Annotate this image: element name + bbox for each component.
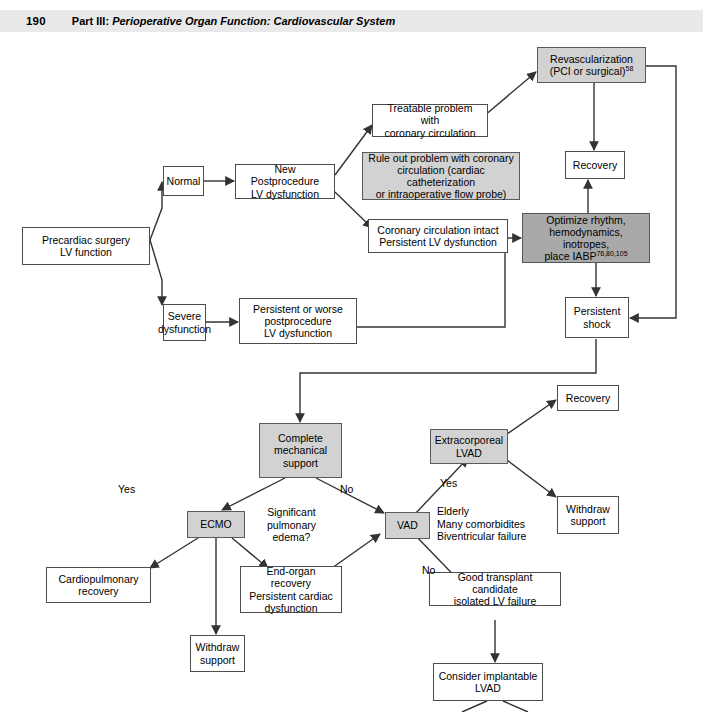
node-label: Coronary circulation intact Persistent L… xyxy=(377,224,498,248)
node-label: Normal xyxy=(167,175,201,187)
node-complete-mechanical-support[interactable]: Complete mechanical support xyxy=(259,423,342,478)
node-revascularization[interactable]: Revascularization (PCI or surgical)58 xyxy=(537,47,646,83)
node-label: End-organ recovery Persistent cardiac dy… xyxy=(245,565,337,614)
node-withdraw-support-left[interactable]: Withdraw support xyxy=(190,635,245,672)
edge-label-no-transplant: No xyxy=(422,564,435,576)
node-treatable-problem[interactable]: Treatable problem with coronary circulat… xyxy=(372,104,488,137)
node-label: ECMO xyxy=(200,518,232,530)
node-coronary-circulation-intact[interactable]: Coronary circulation intact Persistent L… xyxy=(368,219,508,253)
node-normal[interactable]: Normal xyxy=(163,166,204,196)
node-label-line1: Optimize rhythm, xyxy=(546,214,625,226)
node-cardiopulmonary-recovery[interactable]: Cardiopulmonary recovery xyxy=(46,567,151,603)
reference-marker: 58 xyxy=(626,65,634,72)
node-new-postprocedure-lv-dysfunction[interactable]: New Postprocedure LV dysfunction xyxy=(235,164,335,199)
edge-label-no-vad: No xyxy=(340,483,353,495)
node-label: Withdraw support xyxy=(566,503,610,527)
node-label: Treatable problem with coronary circulat… xyxy=(377,102,483,139)
node-label: Recovery xyxy=(566,392,610,404)
node-label: Precardiac surgery LV function xyxy=(42,234,130,258)
node-consider-implantable-lvad[interactable]: Consider implantable LVAD xyxy=(433,663,543,701)
node-label: Complete mechanical support xyxy=(274,432,327,469)
edge-label-yes-ecmo: Yes xyxy=(118,483,135,495)
node-vad[interactable]: VAD xyxy=(385,512,430,539)
node-optimize-rhythm[interactable]: Optimize rhythm, hemodynamics, inotropes… xyxy=(522,213,650,263)
node-label: Rule out problem with coronary circulati… xyxy=(367,152,515,201)
node-label: Good transplant candidate isolated LV fa… xyxy=(434,571,556,608)
node-label-line2: hemodynamics, inotropes, xyxy=(549,226,623,250)
node-label: Consider implantable LVAD xyxy=(439,670,538,694)
node-label: Withdraw support xyxy=(196,641,240,665)
node-label: Cardiopulmonary recovery xyxy=(59,573,139,597)
node-persistent-or-worse[interactable]: Persistent or worse postprocedure LV dys… xyxy=(239,298,357,344)
node-label: VAD xyxy=(397,519,418,531)
node-good-transplant-candidate[interactable]: Good transplant candidate isolated LV fa… xyxy=(429,572,561,606)
flowchart-edges xyxy=(0,0,703,712)
criteria-text-vad-selection: Elderly Many comorbidites Biventricular … xyxy=(437,505,567,543)
node-ecmo[interactable]: ECMO xyxy=(187,511,245,538)
flowchart: Precardiac surgery LV function Normal Se… xyxy=(0,0,703,712)
reference-marker: 76,80,105 xyxy=(596,250,627,257)
node-recovery-top[interactable]: Recovery xyxy=(565,151,625,179)
node-label: Persistent shock xyxy=(574,305,621,329)
edge-label-yes-lvad: Yes xyxy=(440,477,457,489)
node-label: Recovery xyxy=(573,159,617,171)
node-rule-out-coronary-problem[interactable]: Rule out problem with coronary circulati… xyxy=(362,152,520,200)
node-recovery-right[interactable]: Recovery xyxy=(557,385,619,411)
node-extracorporeal-lvad[interactable]: Extracorporeal LVAD xyxy=(430,429,508,464)
node-label: Extracorporeal LVAD xyxy=(435,434,503,458)
node-label: Severe dysfunction xyxy=(158,310,211,334)
node-label-line3: place IABP xyxy=(544,250,596,262)
decision-text-significant-pulmonary-edema: Significant pulmonary edema? xyxy=(239,506,344,544)
node-severe-dysfunction[interactable]: Severe dysfunction xyxy=(163,304,206,341)
node-persistent-shock[interactable]: Persistent shock xyxy=(565,297,629,338)
node-label-line2: (PCI or surgical) xyxy=(550,65,626,77)
book-page: 190 Part III: Perioperative Organ Functi… xyxy=(0,0,703,712)
node-label-line1: Revascularization xyxy=(550,53,633,65)
node-label: New Postprocedure LV dysfunction xyxy=(240,163,330,200)
node-end-organ-recovery[interactable]: End-organ recovery Persistent cardiac dy… xyxy=(240,566,342,613)
node-precardiac-surgery[interactable]: Precardiac surgery LV function xyxy=(22,227,150,265)
node-label: Persistent or worse postprocedure LV dys… xyxy=(253,303,343,340)
